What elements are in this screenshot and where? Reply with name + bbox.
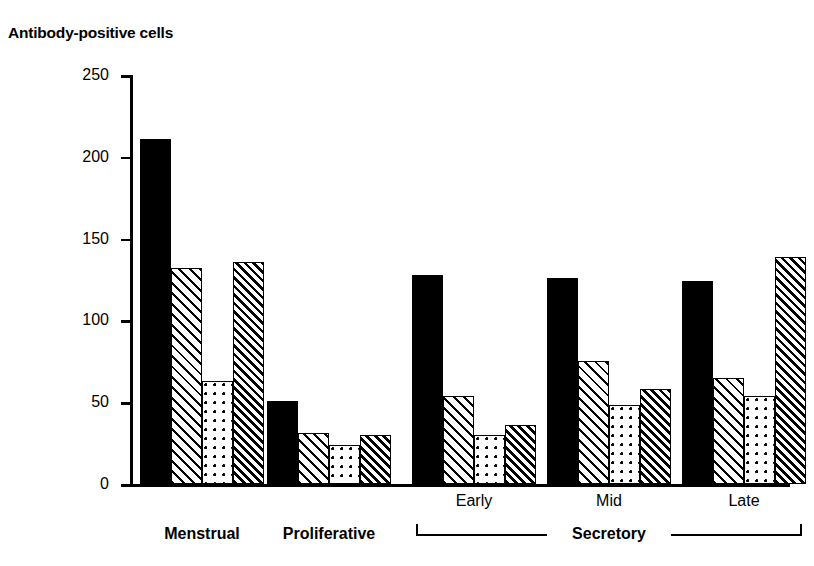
category-label-menstrual: Menstrual <box>164 526 240 542</box>
bar-early-series-1 <box>412 275 443 484</box>
y-tick-50: 50 <box>121 402 130 405</box>
y-axis-line <box>130 75 133 484</box>
bar-menstrual-series-3 <box>202 381 233 484</box>
bar-proliferative-series-2 <box>298 433 329 484</box>
bracket-line-right <box>671 534 802 536</box>
bar-mid-series-2 <box>578 361 609 484</box>
category-sub-label-late: Late <box>728 493 759 509</box>
y-tick-200: 200 <box>121 157 130 160</box>
bar-mid-series-1 <box>547 278 578 484</box>
y-tick-0: 0 <box>121 484 130 487</box>
y-tick-250: 250 <box>121 75 130 78</box>
bar-menstrual-series-1 <box>140 139 171 484</box>
bar-late-series-4 <box>775 257 806 484</box>
bar-proliferative-series-4 <box>360 435 391 484</box>
bar-proliferative-series-3 <box>329 445 360 484</box>
bar-early-series-4 <box>505 425 536 484</box>
bracket-line-left <box>416 534 547 536</box>
y-tick-label-100: 100 <box>82 312 109 328</box>
y-tick-label-200: 200 <box>82 149 109 165</box>
y-tick-100: 100 <box>121 320 130 323</box>
figure-root: Antibody-positive cells 250 200 150 100 … <box>0 0 814 566</box>
y-tick-label-150: 150 <box>82 230 109 246</box>
category-label-proliferative: Proliferative <box>283 526 375 542</box>
category-sub-label-early: Early <box>456 493 492 509</box>
y-tick-150: 150 <box>121 239 130 242</box>
bar-menstrual-series-4 <box>233 262 264 484</box>
bar-late-series-3 <box>744 396 775 484</box>
bracket-tick-right <box>800 524 802 536</box>
bar-menstrual-series-2 <box>171 268 202 484</box>
category-sub-label-mid: Mid <box>596 493 622 509</box>
y-tick-label-50: 50 <box>91 394 109 410</box>
x-axis-line <box>130 484 790 487</box>
bar-mid-series-4 <box>640 389 671 484</box>
secretory-bracket <box>416 524 802 536</box>
bar-mid-series-3 <box>609 405 640 484</box>
bar-late-series-2 <box>713 378 744 484</box>
bar-proliferative-series-1 <box>267 401 298 484</box>
plot-area: 250 200 150 100 50 0 <box>130 75 790 484</box>
bar-early-series-3 <box>474 435 505 484</box>
page-title: Antibody-positive cells <box>8 24 173 42</box>
bar-late-series-1 <box>682 281 713 484</box>
y-tick-label-0: 0 <box>100 476 109 492</box>
y-tick-label-250: 250 <box>82 67 109 83</box>
bar-early-series-2 <box>443 396 474 484</box>
